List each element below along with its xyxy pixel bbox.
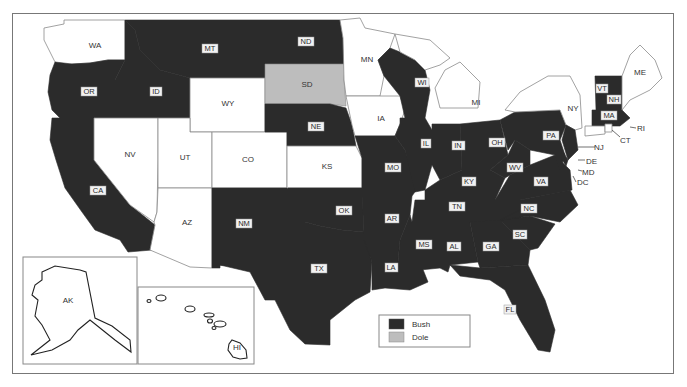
label-GA: GA [486,242,497,251]
label-OR: OR [83,87,95,96]
label-KY: KY [464,177,474,186]
label-ME: ME [634,68,646,77]
label-IA: IA [377,114,385,123]
label-WA: WA [89,41,102,50]
label-VA: VA [536,177,545,186]
state-RI [605,124,612,132]
state-AZ [150,188,212,268]
label-NV: NV [124,150,136,159]
label-TX: TX [314,264,324,273]
label-KS: KS [322,162,333,171]
label-NE: NE [311,122,321,131]
label-MS: MS [418,240,429,249]
label-ND: ND [301,37,312,46]
label-VT: VT [597,84,607,93]
label-CT: CT [620,136,631,145]
label-SC: SC [515,230,526,239]
label-CO: CO [242,155,254,164]
label-WI: WI [417,78,426,87]
label-NJ: NJ [594,143,604,152]
state-WA [44,20,125,66]
label-ID: ID [152,87,160,96]
label-WY: WY [222,99,236,108]
label-IL: IL [423,139,429,148]
label-NY: NY [567,104,579,113]
label-AZ: AZ [182,218,192,227]
label-MI: MI [472,98,481,107]
label-PA: PA [546,131,555,140]
label-OK: OK [339,206,350,215]
state-CT [585,126,605,136]
label-CA: CA [93,186,103,195]
label-MD: MD [582,168,595,177]
label-LA: LA [386,263,395,272]
label-SD: SD [301,80,312,89]
label-AK: AK [63,296,74,305]
label-MO: MO [387,163,399,172]
state-IN [432,124,462,180]
label-HI: HI [233,343,241,352]
label-NC: NC [524,204,535,213]
label-IN: IN [454,141,462,150]
label-MA: MA [603,111,614,120]
legend-swatch-bush [389,319,404,329]
state-IA [346,96,405,136]
legend-swatch-dole [389,332,404,342]
label-WV: WV [509,163,521,172]
label-MN: MN [361,55,374,64]
label-DE: DE [586,157,597,166]
state-NH [608,76,622,110]
label-AL: AL [449,242,458,251]
label-MT: MT [205,44,216,53]
label-FL: FL [506,305,515,314]
legend-label-dole: Dole [412,333,429,342]
legend: Bush Dole [379,315,470,347]
label-DC: DC [577,178,589,187]
us-map: WA OR ID MT ND SD WY NE NV UT CO KS CA A… [0,0,687,387]
label-RI: RI [637,124,645,133]
legend-label-bush: Bush [412,320,430,329]
label-NM: NM [238,219,250,228]
label-AR: AR [387,214,398,223]
label-UT: UT [180,153,191,162]
state-ME [622,45,662,110]
label-TN: TN [452,202,462,211]
label-NH: NH [609,95,620,104]
label-OH: OH [491,138,502,147]
